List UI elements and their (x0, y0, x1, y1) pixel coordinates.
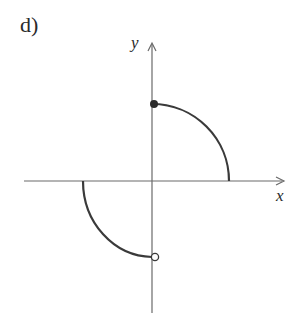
plot-canvas (0, 0, 305, 324)
open-endpoint-dot (151, 253, 158, 260)
closed-endpoint-dot (150, 100, 158, 108)
lower-arc (83, 181, 152, 257)
upper-arc (152, 104, 229, 181)
